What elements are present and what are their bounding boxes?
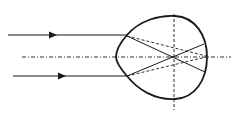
arrow-right-icon bbox=[49, 32, 57, 39]
arrow-right-icon bbox=[58, 73, 66, 80]
refracted-ray-dashed bbox=[127, 36, 206, 56]
ray-diagram bbox=[0, 0, 237, 114]
eye-outline bbox=[116, 16, 207, 99]
